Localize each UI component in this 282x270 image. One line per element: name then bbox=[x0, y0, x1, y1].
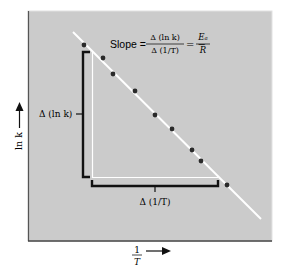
slope-label: Slope = bbox=[110, 38, 146, 50]
y-axis-arrow-icon bbox=[16, 102, 24, 128]
data-point bbox=[82, 43, 87, 48]
data-point bbox=[101, 56, 106, 61]
rhs-denominator: R bbox=[199, 45, 207, 55]
delta-ln-k-label: Δ (ln k) bbox=[39, 109, 72, 119]
data-point bbox=[225, 183, 230, 188]
data-point bbox=[111, 72, 116, 77]
data-point bbox=[133, 89, 138, 94]
data-point bbox=[190, 148, 195, 153]
data-point bbox=[170, 127, 175, 132]
x-axis-label-denominator: T bbox=[134, 257, 141, 267]
x-axis-label-numerator: 1 bbox=[134, 245, 140, 255]
y-axis-label: ln k bbox=[13, 132, 24, 150]
slope-numerator: Δ (ln k) bbox=[150, 33, 180, 42]
data-point bbox=[199, 159, 204, 164]
data-point bbox=[153, 113, 158, 118]
slope-denominator: Δ (1/T) bbox=[151, 46, 179, 55]
arrhenius-plot: Slope = Δ (ln k) Δ (1/T) = − Eₐ R Δ (ln … bbox=[0, 0, 282, 270]
delta-inv-t-label: Δ (1/T) bbox=[139, 197, 170, 207]
x-axis-arrow-icon bbox=[146, 247, 171, 255]
rhs-numerator: Eₐ bbox=[197, 32, 207, 42]
